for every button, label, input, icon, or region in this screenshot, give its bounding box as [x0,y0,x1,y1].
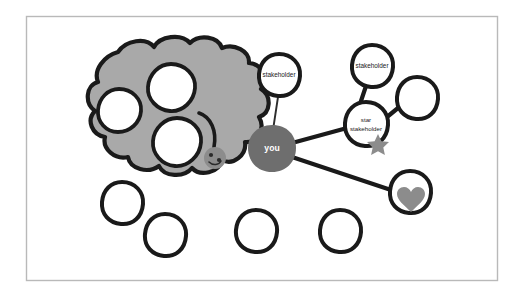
node-plain-bottom-2[interactable] [145,214,186,256]
node-stakeholder-upper[interactable]: stakeholder [352,45,393,87]
node-plain-bottom-3[interactable] [236,210,277,252]
node-stakeholder-top[interactable]: stakeholder [259,54,300,96]
node-you[interactable]: you [248,125,296,172]
cloud-hole-3 [153,118,201,166]
node-outline [352,45,393,87]
node-outline [397,77,438,119]
node-outline [320,210,361,252]
node-outline [102,182,143,224]
diagram-canvas: stakeholder stakeholder star stakeholder… [0,0,524,300]
node-outline [259,54,300,96]
node-shape [248,125,296,172]
node-outline [345,102,388,146]
cloud-hole-1 [148,64,195,111]
node-heart[interactable] [390,171,431,213]
node-outline [145,214,186,256]
cloud-hole-2 [98,89,141,132]
node-outline [236,210,277,252]
cloud-badge-icon [204,147,226,169]
stakeholder-map-svg: stakeholder stakeholder star stakeholder… [0,0,524,300]
node-plain-bottom-1[interactable] [102,182,143,224]
node-plain-right[interactable] [397,77,438,119]
stakeholder-cloud[interactable] [88,37,269,175]
node-plain-bottom-4[interactable] [320,210,361,252]
